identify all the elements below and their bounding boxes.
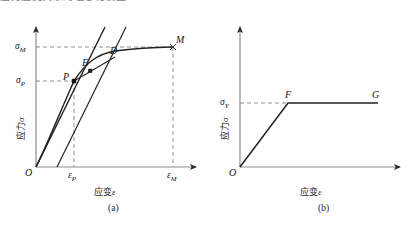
figure-b-curves — [240, 103, 378, 167]
ytick-sigma-M: σM — [15, 41, 26, 54]
label-point-G: G — [372, 89, 379, 100]
xtick-epsilon-M: εM — [167, 170, 177, 183]
axis-label-x-a: 应变ε — [94, 185, 116, 198]
axis-label-y-a: 应力σ — [10, 118, 28, 140]
axis-label-y-b-text: 应力σ — [220, 118, 230, 140]
ytick-sigma-Y: σY — [220, 97, 229, 110]
line-elastic-tangent — [36, 27, 105, 167]
marker-point-E — [88, 69, 92, 73]
axis-label-x-b: 应变ε — [300, 185, 322, 198]
origin-label-b: O — [229, 167, 236, 178]
curve-stress-strain-OPDM — [36, 47, 173, 167]
ytick-sigma-P: σP — [16, 75, 25, 88]
xtick-epsilon-P: εP — [68, 170, 76, 183]
caption-figure-b: (b) — [318, 203, 329, 213]
label-point-F: F — [285, 89, 291, 100]
caption-figure-a: (a) — [108, 203, 119, 213]
label-point-P: P — [63, 71, 69, 82]
marker-point-P — [72, 79, 76, 83]
origin-label-a: O — [25, 167, 32, 178]
axis-label-y-a-text: 应力σ — [16, 118, 26, 140]
figure-root: 应力应变关系的理想化模型 — [0, 0, 408, 226]
figure-a-curves — [36, 27, 173, 167]
figure-vector-layer — [0, 0, 408, 226]
label-point-D: D — [110, 45, 117, 56]
curve-elastic-perfectly-plastic-OFG — [240, 103, 378, 167]
line-secant-PED — [74, 57, 115, 81]
label-point-M: M — [176, 34, 184, 45]
figure-a-reference-lines — [36, 47, 173, 167]
label-point-E: E — [82, 57, 88, 68]
axis-label-y-b: 应力σ — [214, 118, 232, 140]
